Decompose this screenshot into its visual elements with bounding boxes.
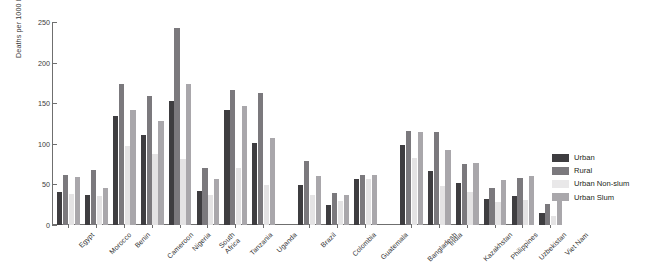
x-tick-mark (309, 225, 310, 228)
x-axis-label: Cameroon (166, 231, 195, 260)
x-axis-label: Colombia (350, 231, 376, 257)
x-axis-labels: EgyptMoroccoBeninCameroonNigeriaSouthAfr… (0, 0, 663, 279)
x-axis-label: Benin (134, 231, 152, 249)
chart-legend: UrbanRuralUrban Non-slumUrban Slum (552, 151, 660, 204)
legend-swatch (552, 193, 569, 201)
x-tick-mark (263, 225, 264, 228)
x-axis-label: Nigeria (191, 231, 212, 252)
x-tick-mark (180, 225, 181, 228)
x-axis-label: Tanzania (248, 231, 273, 256)
x-tick-mark (124, 225, 125, 228)
x-tick-mark (68, 225, 69, 228)
x-tick-mark (495, 225, 496, 228)
x-axis-label: Uganda (275, 231, 298, 254)
x-axis-label: Guatemala (380, 231, 410, 261)
x-tick-mark (152, 225, 153, 228)
bar-chart: Deaths per 1000 births 050100150200250 E… (0, 0, 663, 279)
x-tick-mark (235, 225, 236, 228)
x-tick-mark (207, 225, 208, 228)
legend-item: Rural (552, 164, 660, 177)
legend-label: Urban Slum (574, 193, 614, 202)
legend-label: Urban (574, 153, 595, 162)
legend-item: Urban Non-slum (552, 177, 660, 190)
x-tick-mark (550, 225, 551, 228)
x-tick-mark (337, 225, 338, 228)
x-axis-label: Brazil (319, 231, 337, 249)
legend-swatch (552, 167, 569, 175)
x-axis-label: Uzbekistan (537, 231, 567, 261)
x-tick-mark (439, 225, 440, 228)
legend-swatch (552, 180, 569, 188)
legend-swatch (552, 154, 569, 162)
x-axis-label: Egypt (78, 231, 96, 249)
x-tick-mark (96, 225, 97, 228)
x-tick-mark (522, 225, 523, 228)
legend-item: Urban Slum (552, 191, 660, 204)
legend-item: Urban (552, 151, 660, 164)
legend-label: Urban Non-slum (574, 179, 629, 188)
legend-label: Rural (574, 166, 592, 175)
x-tick-mark (411, 225, 412, 228)
x-axis-label: SouthAfrica (217, 231, 241, 255)
x-tick-mark (365, 225, 366, 228)
x-axis-label: Morocco (108, 231, 132, 255)
x-tick-mark (467, 225, 468, 228)
x-axis-label: Kazakhstan (482, 231, 514, 263)
